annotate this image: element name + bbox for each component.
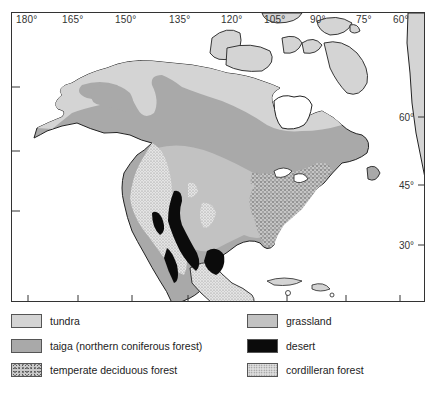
legend-label: cordilleran forest [286,364,364,376]
legend-item-cordilleran-forest: cordilleran forest [247,362,364,378]
taiga-swatch [11,339,42,353]
temperate-deciduous-forest-swatch [11,363,42,377]
biome-map [11,12,425,302]
legend-item-desert: desert [247,338,315,354]
latitude-label: 45° [399,180,414,191]
figure-title-cropped [0,0,436,5]
map-legend: tundra taiga (northern coniferous forest… [0,310,436,390]
longitude-label: 90° [310,14,326,25]
latitude-label: 30° [399,240,414,251]
longitude-label: 60° [393,14,409,25]
longitude-label: 180° [16,14,37,25]
legend-label: tundra [50,315,80,327]
legend-label: temperate deciduous forest [50,364,177,376]
cordilleran-forest-swatch [247,363,278,377]
longitude-label: 120° [221,14,242,25]
longitude-label: 105° [264,14,285,25]
longitude-label: 165° [62,14,83,25]
longitude-label: 135° [169,14,190,25]
longitude-label: 150° [115,14,136,25]
legend-label: grassland [286,315,332,327]
legend-label: taiga (northern coniferous forest) [50,340,202,352]
tundra-swatch [11,314,42,328]
legend-label: desert [286,340,315,352]
greenland [407,13,425,183]
legend-item-tundra: tundra [11,313,80,329]
north-america-map-graphic [12,13,425,302]
longitude-label: 75° [356,14,372,25]
legend-item-taiga: taiga (northern coniferous forest) [11,338,202,354]
desert-swatch [247,339,278,353]
legend-item-grassland: grassland [247,313,332,329]
grassland-swatch [247,314,278,328]
legend-item-temperate-deciduous-forest: temperate deciduous forest [11,362,177,378]
latitude-label: 60° [399,112,414,123]
